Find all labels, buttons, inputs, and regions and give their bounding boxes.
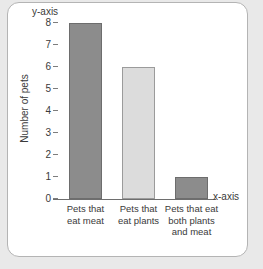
y-axis-title: Number of pets (19, 49, 30, 169)
y-axis-tick-mark (53, 154, 58, 155)
x-axis-annotation-label: x-axis (213, 191, 239, 202)
y-axis-tick: 2 (30, 149, 58, 161)
y-axis-annotation-label: y-axis (32, 6, 58, 17)
y-axis-tick-label: 4 (45, 105, 51, 117)
y-axis-tick-label: 3 (45, 127, 51, 139)
y-axis-tick-mark (53, 22, 58, 23)
y-axis-tick-mark (53, 66, 58, 67)
bar-3 (175, 177, 208, 199)
y-axis-tick: 3 (30, 127, 58, 139)
x-axis-category-label: Pets that eatboth plantsand meat (157, 203, 226, 238)
y-axis-tick-label: 2 (45, 149, 51, 161)
y-axis-tick-label: 5 (45, 83, 51, 95)
bar-chart-plot-area: y-axis Number of pets 876543210 x-axis P… (8, 3, 249, 258)
x-axis-category-label-line: and meat (157, 226, 226, 238)
y-axis-tick-mark (53, 176, 58, 177)
bar-1 (69, 23, 102, 199)
x-axis-category-label-line: both plants (157, 215, 226, 227)
y-axis-tick-label: 7 (45, 39, 51, 51)
figure-card: y-axis Number of pets 876543210 x-axis P… (7, 2, 248, 257)
y-axis-tick: 7 (30, 39, 58, 51)
y-axis-tick: 5 (30, 83, 58, 95)
y-axis-tick: 8 (30, 17, 58, 29)
y-axis-tick-label: 6 (45, 61, 51, 73)
y-axis-tick: 1 (30, 171, 58, 183)
y-axis-tick-label: 8 (45, 17, 51, 29)
y-axis-tick-mark (53, 110, 58, 111)
bar-2 (122, 67, 155, 199)
y-axis-tick-mark (53, 88, 58, 89)
y-axis-tick: 6 (30, 61, 58, 73)
y-axis-tick: 4 (30, 105, 58, 117)
x-axis-line (53, 199, 216, 200)
y-axis-tick-label: 1 (45, 171, 51, 183)
y-axis-tick-mark (53, 132, 58, 133)
x-axis-category-label-line: Pets that eat (157, 203, 226, 215)
y-axis-tick-mark (53, 44, 58, 45)
